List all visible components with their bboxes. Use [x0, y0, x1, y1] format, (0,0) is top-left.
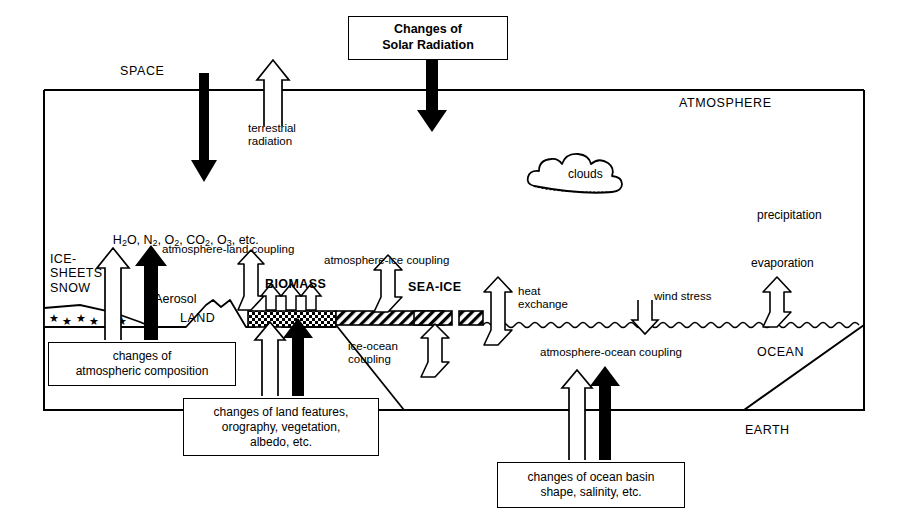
label-evaporation: evaporation — [751, 257, 814, 271]
svg-text:★: ★ — [49, 312, 59, 325]
terrestrial-radiation-arrow — [257, 60, 289, 126]
label-atmosphere: ATMOSPHERE — [679, 96, 772, 110]
atmosphere-composition-formula: H2O, N2, O2, CO2, O3, etc. — [92, 219, 259, 263]
label-space: SPACE — [120, 64, 164, 78]
land-features-hollow-arrow — [255, 322, 285, 396]
label-precipitation: precipitation — [757, 209, 822, 223]
forcing-box-ocean-basin-text: changes of ocean basin shape, salinity, … — [528, 470, 655, 500]
label-terrestrial-radiation: terrestrial radiation — [248, 122, 296, 148]
atmosphere-composition-aerosol: Aerosol — [92, 292, 259, 306]
label-land: LAND — [180, 311, 215, 325]
forcing-box-land-features[interactable]: changes of land features, orography, veg… — [183, 398, 379, 456]
label-atmosphere-composition: H2O, N2, O2, CO2, O3, etc. Aerosol — [92, 190, 259, 335]
forcing-box-ocean-basin[interactable]: changes of ocean basin shape, salinity, … — [497, 462, 685, 508]
svg-text:★: ★ — [62, 315, 72, 328]
ocean-floor-line — [404, 325, 864, 410]
solar-radiation-arrow — [417, 58, 447, 132]
ocean-basin-hollow-arrow — [562, 370, 592, 460]
land-features-black-arrow — [283, 318, 313, 396]
heat-exchange-arrow — [484, 277, 512, 345]
label-wind-stress: wind stress — [654, 290, 712, 303]
label-ocean: OCEAN — [757, 345, 804, 359]
ocean-basin-black-arrow — [590, 366, 620, 460]
evaporation-precipitation-arrow — [763, 277, 791, 327]
label-heat-exchange: heat exchange — [518, 285, 568, 311]
wind-stress-arrow — [632, 300, 658, 334]
label-clouds: clouds — [568, 168, 603, 182]
forcing-box-solar[interactable]: Changes of Solar Radiation — [348, 16, 508, 60]
label-earth: EARTH — [745, 423, 790, 437]
label-atmosphere-ocean-coupling: atmosphere-ocean coupling — [540, 346, 682, 359]
biomass-layer — [248, 311, 336, 327]
label-ice-ocean-coupling: ice-ocean coupling — [348, 340, 398, 366]
forcing-box-atmospheric-composition[interactable]: changes of atmospheric composition — [48, 342, 236, 386]
label-ice-sheets-snow: ICE- SHEETS SNOW — [50, 252, 102, 295]
sea-ice-layer — [336, 311, 483, 325]
forcing-box-atmospheric-composition-text: changes of atmospheric composition — [76, 349, 209, 379]
label-biomass: BIOMASS — [265, 277, 326, 291]
label-atmosphere-ice-coupling: atmosphere-ice coupling — [324, 254, 449, 267]
label-atmosphere-land-coupling: atmosphere-land coupling — [162, 243, 294, 256]
label-sea-ice: SEA-ICE — [408, 280, 462, 294]
forcing-box-solar-text: Changes of Solar Radiation — [382, 22, 474, 53]
climate-system-diagram: ★ ★ ★ ★ ★ ★ — [0, 0, 901, 528]
forcing-box-land-features-text: changes of land features, orography, veg… — [214, 405, 349, 450]
svg-text:★: ★ — [76, 312, 86, 325]
ocean-surface-wavy-line — [483, 323, 859, 328]
